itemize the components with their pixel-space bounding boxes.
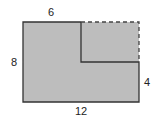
figure-canvas [0,0,156,121]
label-bottom: 12 [75,106,87,117]
label-left: 8 [11,57,17,68]
label-top: 6 [48,7,54,18]
label-right: 4 [144,77,150,88]
